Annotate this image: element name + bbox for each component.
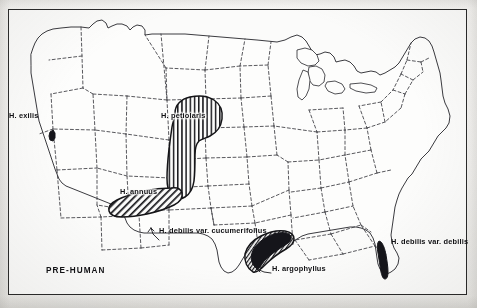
range-label-annuus: H. annuus — [120, 188, 157, 195]
range-label-cucumerifolius: H. debilis var. cucumerifolius — [159, 227, 267, 234]
range-label-debilis: H. debilis var. debilis — [391, 238, 468, 245]
range-label-petiolaris: H. petiolaris — [161, 112, 206, 119]
map-stage — [9, 10, 466, 294]
range-exilis — [49, 130, 55, 141]
figure-caption: PRE-HUMAN — [46, 266, 105, 275]
range-label-argophyllus: H. argophyllus — [272, 265, 326, 272]
country-outline — [31, 20, 450, 274]
figure-page: H. exilis H. petiolaris H. annuus H. deb… — [0, 0, 477, 308]
range-label-exilis: H. exilis — [9, 112, 39, 119]
us-distribution-map — [9, 10, 466, 294]
